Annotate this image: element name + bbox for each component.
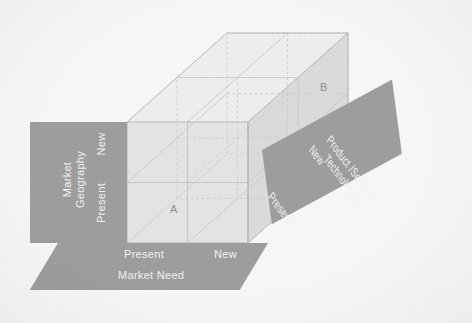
tick-label-need-new: New	[214, 248, 237, 260]
axis-title-market-geography: Market Geography	[61, 130, 86, 230]
tick-label-geography-new: New	[95, 121, 107, 167]
axis-title-line2: Geography	[73, 151, 85, 208]
axis-panel-market-need: Present New Market Need	[30, 243, 268, 290]
axis-title-market-need: Market Need	[118, 269, 184, 281]
cell-marker-b: B	[320, 81, 327, 93]
axis-title-line1: Market	[61, 162, 73, 197]
tick-label-need-present: Present	[124, 248, 164, 260]
diagram-canvas: .face-front { fill:#e3e3e1; } .face-top …	[0, 0, 472, 323]
tick-label-geography-present: Present	[95, 176, 107, 230]
axis-panel-market-geography: Market Geography New Present	[30, 122, 127, 243]
cell-marker-a: A	[170, 203, 177, 215]
